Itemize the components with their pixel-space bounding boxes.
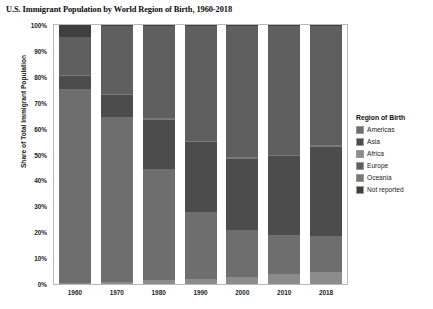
bar-segment[interactable] [101,95,133,117]
bar-segment[interactable] [268,25,300,26]
stacked-bar[interactable] [185,25,217,284]
bar-segment[interactable] [59,37,91,75]
bar-segment[interactable] [226,277,258,284]
bar-segment[interactable] [185,25,217,26]
x-axis-tick-label: 2000 [235,289,249,296]
x-axis-ticks: 1960197019801990200020102018 [54,289,347,303]
plot-area [54,25,347,284]
bar-segment[interactable] [310,25,342,26]
y-axis-tick-label: 50% [34,151,47,158]
y-axis-tick-label: 10% [34,255,47,262]
bar-segment[interactable] [226,25,258,26]
legend-swatch-icon [356,174,364,182]
legend-title: Region of Birth [356,114,431,121]
bar-segment[interactable] [268,274,300,284]
bar-segment[interactable] [185,212,217,279]
legend-item-label: Oceania [367,174,392,182]
stacked-bar[interactable] [310,25,342,284]
bar-segment[interactable] [101,94,133,95]
bar-segment[interactable] [59,25,91,37]
stacked-bar[interactable] [59,25,91,284]
bar-segment[interactable] [268,155,300,157]
y-axis-tick-label: 40% [34,177,47,184]
legend-item[interactable]: Americas [356,124,431,135]
y-axis-tick-label: 20% [34,229,47,236]
stacked-bar[interactable] [268,25,300,284]
y-axis-tick-label: 30% [34,203,47,210]
stacked-bar[interactable] [101,25,133,284]
x-axis-tick-label: 1980 [152,289,166,296]
x-axis-tick-label: 2018 [319,289,333,296]
y-axis-ticks: 100%90%80%70%60%50%40%30%20%10%0% [0,24,50,286]
bar-segment[interactable] [143,169,175,280]
y-axis-tick-label: 100% [31,22,47,29]
bar-segment[interactable] [310,272,342,284]
x-axis-tick-label: 2010 [277,289,291,296]
chart-title: U.S. Immigrant Population by World Regio… [6,5,232,14]
bar-segment[interactable] [101,282,133,284]
stacked-bar[interactable] [143,25,175,284]
legend-item-label: Not reported [367,186,404,194]
bar-segment[interactable] [59,89,91,283]
bar-segment[interactable] [143,26,175,118]
bar-segment[interactable] [310,145,342,147]
bar-segment[interactable] [310,236,342,272]
y-axis-tick-label: 60% [34,125,47,132]
legend-item-label: Americas [367,126,394,134]
bar-segment[interactable] [101,26,133,94]
bar-segment[interactable] [310,147,342,236]
legend-item-label: Europe [367,162,388,170]
x-axis-tick-label: 1960 [68,289,82,296]
bar-segment[interactable] [226,157,258,159]
legend-item[interactable]: Oceania [356,172,431,183]
bar-segment[interactable] [185,26,217,140]
legend-item-label: Africa [367,150,384,158]
bar-segment[interactable] [59,76,91,89]
y-axis-tick-label: 90% [34,47,47,54]
legend-items: AmericasAsiaAfricaEuropeOceaniaNot repor… [356,124,431,195]
bar-segment[interactable] [59,75,91,76]
bar-segment[interactable] [226,159,258,230]
stacked-bar[interactable] [226,25,258,284]
bar-segment[interactable] [143,280,175,284]
legend-item[interactable]: Not reported [356,184,431,195]
bar-segment[interactable] [226,230,258,277]
bar-segment[interactable] [185,279,217,284]
bar-segment[interactable] [143,118,175,120]
bar-segment[interactable] [268,235,300,274]
legend-swatch-icon [356,138,364,146]
y-axis-tick-label: 70% [34,99,47,106]
bar-segment[interactable] [310,26,342,145]
bar-segment[interactable] [59,283,91,284]
legend-item-label: Asia [367,138,380,146]
legend-item[interactable]: Africa [356,148,431,159]
bar-segment[interactable] [185,141,217,143]
legend-item[interactable]: Asia [356,136,431,147]
bar-segment[interactable] [101,25,133,26]
bar-segment[interactable] [226,26,258,157]
bar-segment[interactable] [101,117,133,281]
chart-figure: U.S. Immigrant Population by World Regio… [0,0,433,309]
legend-swatch-icon [356,162,364,170]
legend-swatch-icon [356,150,364,158]
chart-legend: Region of Birth AmericasAsiaAfricaEurope… [356,114,431,196]
bar-segment[interactable] [143,120,175,169]
x-axis-tick-label: 1990 [193,289,207,296]
y-axis-tick-label: 80% [34,73,47,80]
legend-swatch-icon [356,126,364,134]
bar-segment[interactable] [268,26,300,154]
legend-item[interactable]: Europe [356,160,431,171]
bar-segment[interactable] [143,25,175,26]
bar-segment[interactable] [185,142,217,212]
x-axis-tick-label: 1970 [110,289,124,296]
bar-segment[interactable] [268,156,300,235]
legend-swatch-icon [356,186,364,194]
y-axis-tick-label: 0% [38,281,47,288]
